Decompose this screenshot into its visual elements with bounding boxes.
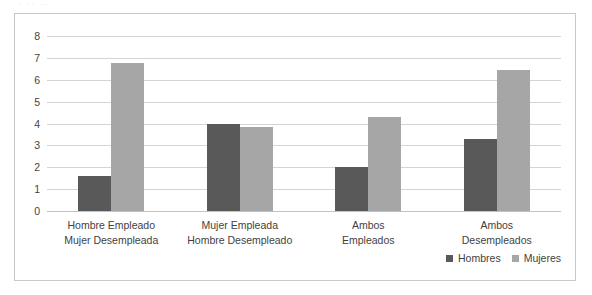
y-tick-label-7: 7	[34, 53, 40, 64]
legend-label: Hombres	[458, 252, 501, 264]
chart-frame: 876543210 Hombre EmpleadoMujer Desemplea…	[14, 13, 576, 281]
legend-label: Mujeres	[524, 252, 561, 264]
bar-hombres	[207, 124, 240, 212]
scan-artifact: · ·· ··	[18, 0, 138, 9]
y-tick-label-8: 8	[34, 31, 40, 42]
category-label-line2: Empleados	[304, 233, 433, 248]
y-tick-label-6: 6	[34, 75, 40, 86]
category-label-line2: Desempleados	[433, 233, 562, 248]
y-tick-label-1: 1	[34, 184, 40, 195]
plot-area: 876543210 Hombre EmpleadoMujer Desemplea…	[47, 36, 561, 211]
category-label-line2: Mujer Desempleada	[47, 233, 176, 248]
bar-hombres	[78, 176, 111, 211]
y-tick-label-5: 5	[34, 96, 40, 107]
y-tick-label-4: 4	[34, 118, 40, 129]
bar-mujeres	[497, 70, 530, 211]
category-label: Hombre EmpleadoMujer Desempleada	[47, 218, 176, 248]
category-label-line1: Hombre Empleado	[67, 219, 155, 231]
bar-mujeres	[240, 127, 273, 211]
bar-group	[176, 36, 305, 211]
y-tick-label-2: 2	[34, 162, 40, 173]
legend-swatch-icon	[512, 255, 519, 262]
category-label-line2: Hombre Desempleado	[176, 233, 305, 248]
bar-group	[47, 36, 176, 211]
chart-legend: HombresMujeres	[446, 252, 561, 264]
bar-mujeres	[111, 63, 144, 211]
category-label-line1: Mujer Empleada	[202, 219, 278, 231]
y-tick-label-3: 3	[34, 140, 40, 151]
bar-mujeres	[368, 117, 401, 211]
gridline-0	[47, 211, 561, 212]
category-label: AmbosEmpleados	[304, 218, 433, 248]
bar-hombres	[335, 167, 368, 211]
category-label: AmbosDesempleados	[433, 218, 562, 248]
category-label-line1: Ambos	[352, 219, 385, 231]
bar-group	[433, 36, 562, 211]
legend-swatch-icon	[446, 255, 453, 262]
y-tick-label-0: 0	[34, 206, 40, 217]
legend-item-mujeres: Mujeres	[512, 252, 561, 264]
category-label-line1: Ambos	[480, 219, 513, 231]
bar-hombres	[464, 139, 497, 211]
category-label: Mujer EmpleadaHombre Desempleado	[176, 218, 305, 248]
bar-group	[304, 36, 433, 211]
legend-item-hombres: Hombres	[446, 252, 501, 264]
